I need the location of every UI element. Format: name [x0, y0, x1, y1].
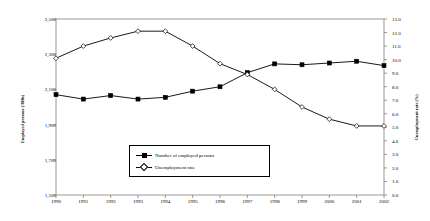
- data-point-marker: [163, 29, 168, 34]
- data-point-marker: [190, 44, 195, 49]
- data-point-marker: [108, 36, 113, 41]
- legend-label: Number of employed persons: [155, 153, 214, 158]
- data-point-marker: [81, 97, 85, 101]
- plot-area: [0, 0, 430, 221]
- data-point-marker: [163, 95, 167, 99]
- data-point-marker: [191, 89, 195, 93]
- open-diamond-marker-icon: [136, 164, 152, 170]
- data-point-marker: [54, 93, 58, 97]
- data-point-marker: [300, 63, 304, 67]
- data-point-marker: [382, 64, 386, 68]
- data-point-marker: [218, 85, 222, 89]
- data-point-marker: [327, 61, 331, 65]
- legend-item-employed: Number of employed persons: [136, 152, 214, 158]
- line-chart: Employed persons ('000s) Unemployment ra…: [0, 0, 430, 221]
- data-point-marker: [136, 29, 141, 34]
- data-point-marker: [218, 61, 223, 66]
- filled-square-marker-icon: [136, 152, 152, 158]
- legend-label: Unemployment rate: [155, 165, 195, 170]
- data-point-marker: [136, 97, 140, 101]
- data-point-marker: [109, 94, 113, 98]
- data-point-marker: [355, 59, 359, 63]
- data-point-marker: [54, 56, 59, 61]
- legend-item-unemployment: Unemployment rate: [136, 164, 195, 170]
- chart-legend: Number of employed persons Unemployment …: [129, 145, 270, 177]
- data-point-marker: [272, 87, 277, 92]
- series-line: [56, 61, 384, 99]
- data-point-marker: [273, 62, 277, 66]
- data-point-marker: [81, 44, 86, 49]
- series-line: [56, 31, 384, 126]
- data-point-marker: [354, 124, 359, 129]
- data-point-marker: [300, 105, 305, 110]
- data-point-marker: [327, 117, 332, 122]
